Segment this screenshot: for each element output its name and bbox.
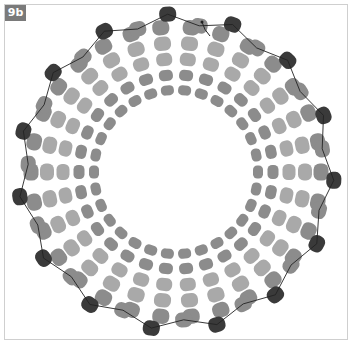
bead-ring-diagram [0,0,352,353]
bead [270,116,288,136]
bead [152,19,170,36]
bead [94,131,108,147]
bead [131,56,150,73]
bead [102,235,120,253]
bead [89,166,99,179]
bead [278,186,294,204]
bead [74,165,85,179]
bead [198,72,215,87]
bead [283,164,296,180]
bead [41,189,58,209]
bead [194,87,209,101]
bead [90,148,102,163]
bead [201,271,220,288]
bead [206,40,226,59]
bead [294,135,311,155]
bead [257,203,273,220]
bead [179,69,194,81]
bead [126,285,146,304]
bead [41,135,58,155]
bead [232,91,250,109]
bead [89,220,106,238]
bead [143,243,158,257]
bead [178,248,192,259]
bead [250,148,262,163]
bead [160,248,174,259]
bead [253,166,263,179]
bead [40,164,54,181]
bead [160,85,174,96]
bead [210,300,231,320]
bead [89,106,106,124]
bead [244,131,258,147]
bead [138,257,155,272]
bead [270,208,288,228]
bead [127,93,143,108]
bead [127,235,143,250]
bead [234,116,250,132]
bead [80,203,96,220]
bead [198,257,215,272]
bead [94,197,108,213]
bead [216,248,234,265]
bead [113,225,129,241]
bead [179,277,196,292]
bead [126,40,146,59]
bead [234,212,250,228]
bead [209,235,225,250]
bead [294,189,311,209]
bead [314,164,329,181]
bead [153,292,171,308]
bead [131,271,150,288]
bead [102,91,120,109]
bead [113,103,129,119]
bead [153,36,171,52]
bead [180,292,198,308]
bead [223,103,239,119]
bead [74,144,88,160]
thread-end-dot [201,21,204,24]
bead [298,164,312,181]
bead [257,124,273,141]
bead [264,184,278,200]
bead [201,56,220,73]
bead [246,220,263,238]
bead [158,262,173,274]
bead [119,80,137,97]
bead [57,164,70,180]
bead [180,36,198,52]
bead [178,85,192,96]
bead [194,243,209,257]
bead [102,116,118,132]
bead [119,248,137,265]
bead [156,277,173,292]
bead [74,184,88,200]
bead [64,116,82,136]
bead [143,87,158,101]
bead [209,93,225,108]
bead [246,106,263,124]
bead [102,212,118,228]
bead [206,285,226,304]
bead [158,69,173,81]
bead [268,165,279,179]
bead [216,80,234,97]
bead [232,235,250,253]
bead [90,182,102,197]
bead [57,139,73,157]
bead [64,208,82,228]
bead [223,225,239,241]
bead [57,186,73,204]
bead [264,144,278,160]
bead [244,197,258,213]
bead [179,262,194,274]
bead [179,52,196,67]
bead [138,72,155,87]
bead [250,182,262,197]
bead [80,124,96,141]
bead [156,52,173,67]
bead [278,139,294,157]
